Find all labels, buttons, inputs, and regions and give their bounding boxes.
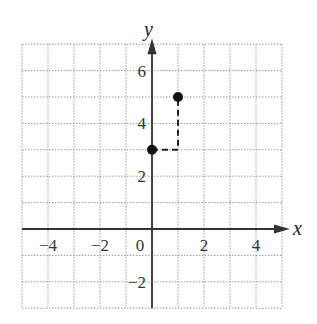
axes <box>22 38 290 308</box>
x-axis-label: x <box>292 217 302 239</box>
y-tick-label: 2 <box>138 167 147 186</box>
x-axis-arrow-icon <box>274 225 290 234</box>
x-tick-label: 2 <box>200 236 209 255</box>
y-tick-label: 6 <box>138 62 147 81</box>
x-tick-label: −2 <box>91 236 109 255</box>
x-tick-label: −4 <box>39 236 58 255</box>
y-axis-arrow-icon <box>148 38 157 54</box>
coordinate-plane: −4−2024−2246 x y <box>0 0 317 324</box>
x-tick-label: 4 <box>252 236 261 255</box>
dashed-path <box>152 97 178 150</box>
data-point <box>173 92 183 102</box>
x-tick-label: 0 <box>136 236 145 255</box>
y-tick-label: 4 <box>138 114 147 133</box>
y-axis-label: y <box>142 18 153 41</box>
data-point <box>147 145 157 155</box>
y-tick-label: −2 <box>128 273 146 292</box>
